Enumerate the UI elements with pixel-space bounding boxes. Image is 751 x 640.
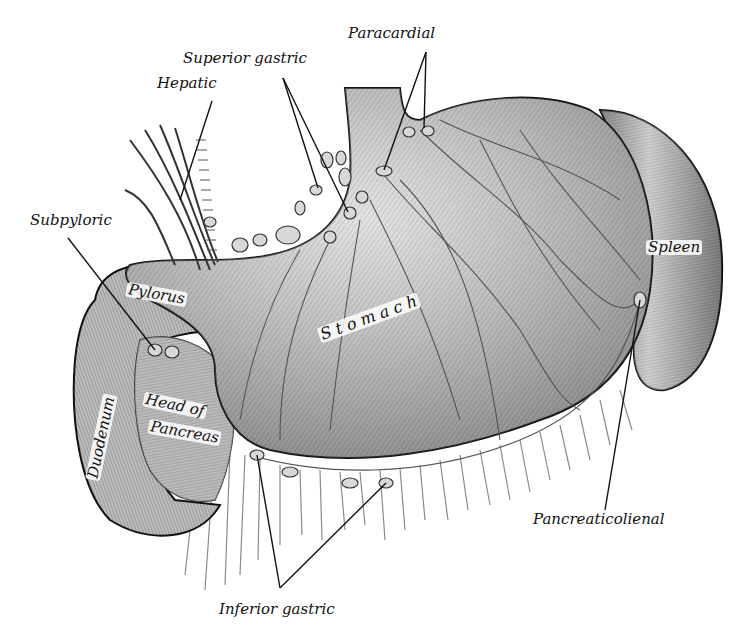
label-paracardial: Paracardial — [348, 26, 435, 41]
label-spleen: Spleen — [646, 240, 702, 255]
label-inferior-gastric: Inferior gastric — [219, 602, 335, 617]
label-subpyloric: Subpyloric — [30, 213, 112, 228]
label-superior-gastric: Superior gastric — [183, 51, 307, 66]
hepatic-vessels — [125, 125, 218, 270]
label-hepatic: Hepatic — [157, 76, 217, 91]
label-pancreaticolienal: Pancreaticolienal — [533, 512, 665, 527]
